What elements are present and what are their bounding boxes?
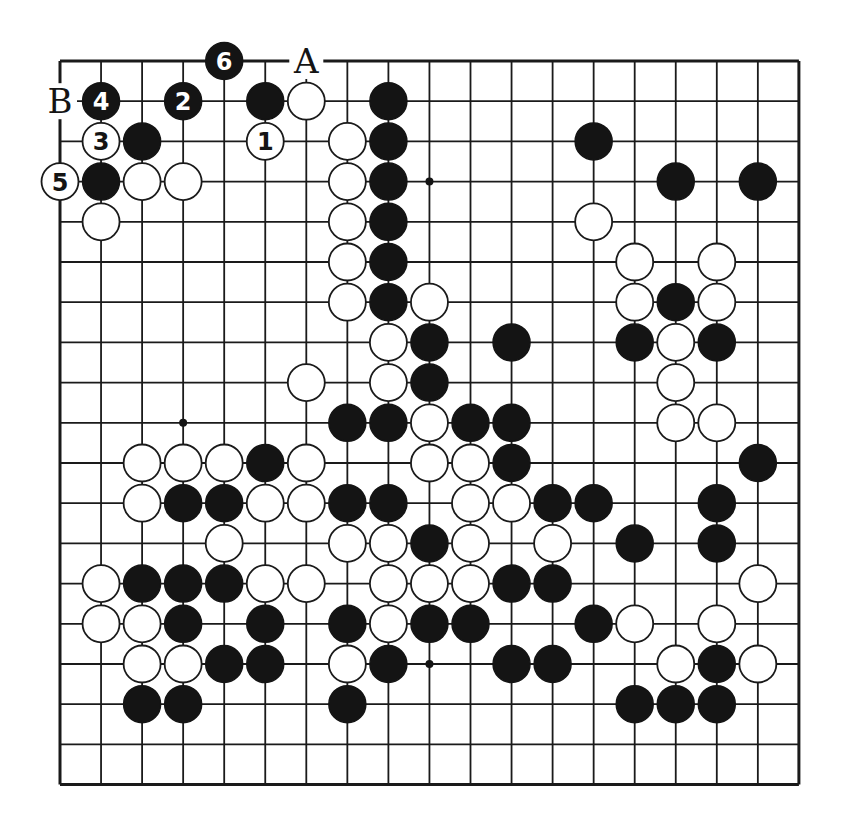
black-stone <box>329 686 366 723</box>
white-stone <box>411 565 448 602</box>
white-stone <box>288 364 325 401</box>
black-stone <box>657 284 694 321</box>
white-stone <box>657 646 694 683</box>
white-stone <box>206 445 243 482</box>
black-stone <box>329 605 366 642</box>
white-stone <box>411 404 448 441</box>
white-stone <box>657 404 694 441</box>
go-board: 123456 AB <box>0 0 846 827</box>
black-stone <box>657 686 694 723</box>
white-stone <box>411 445 448 482</box>
white-stone <box>657 364 694 401</box>
white-stone <box>165 445 202 482</box>
move-number: 5 <box>52 169 69 197</box>
black-stone <box>698 324 735 361</box>
white-stone <box>329 284 366 321</box>
white-stone <box>247 485 284 522</box>
label-text: B <box>48 81 73 121</box>
black-stone <box>534 485 571 522</box>
white-stone <box>165 646 202 683</box>
white-stone <box>329 244 366 281</box>
white-stone <box>370 605 407 642</box>
point-label-B: B <box>43 81 77 121</box>
black-stone <box>452 404 489 441</box>
white-stone <box>452 565 489 602</box>
white-stone <box>288 485 325 522</box>
black-stone <box>698 646 735 683</box>
numbered-move-5: 5 <box>42 163 79 200</box>
black-stone <box>165 485 202 522</box>
black-stone <box>165 605 202 642</box>
black-stone <box>370 244 407 281</box>
black-stone <box>370 123 407 160</box>
black-stone <box>575 605 612 642</box>
white-stone <box>124 605 161 642</box>
black-stone <box>493 324 530 361</box>
black-stone <box>411 605 448 642</box>
white-stone <box>739 565 776 602</box>
black-stone <box>206 646 243 683</box>
white-stone <box>452 485 489 522</box>
black-stone <box>329 485 366 522</box>
white-stone <box>288 83 325 120</box>
white-stone <box>124 646 161 683</box>
black-stone <box>411 364 448 401</box>
star-point-icon <box>179 419 187 427</box>
black-stone <box>370 163 407 200</box>
black-stone <box>616 324 653 361</box>
black-stone <box>739 445 776 482</box>
numbered-move-6: 6 <box>206 43 243 80</box>
black-stone <box>329 404 366 441</box>
move-number: 6 <box>216 48 233 76</box>
white-stone <box>370 565 407 602</box>
black-stone <box>452 605 489 642</box>
white-stone <box>83 203 120 240</box>
white-stone <box>452 525 489 562</box>
white-stone <box>165 163 202 200</box>
white-stone <box>247 565 284 602</box>
black-stone <box>493 646 530 683</box>
white-stone <box>739 646 776 683</box>
black-stone <box>247 83 284 120</box>
go-board-diagram: 123456 AB <box>0 0 846 827</box>
black-stone <box>206 485 243 522</box>
black-stone <box>83 163 120 200</box>
white-stone <box>493 485 530 522</box>
black-stone <box>124 123 161 160</box>
move-number: 4 <box>93 88 110 116</box>
numbered-move-1: 1 <box>247 123 284 160</box>
white-stone <box>616 244 653 281</box>
black-stone <box>370 646 407 683</box>
white-stone <box>329 646 366 683</box>
numbered-move-3: 3 <box>83 123 120 160</box>
black-stone <box>247 605 284 642</box>
white-stone <box>124 485 161 522</box>
white-stone <box>329 163 366 200</box>
black-stone <box>370 404 407 441</box>
white-stone <box>698 404 735 441</box>
white-stone <box>370 324 407 361</box>
black-stone <box>493 445 530 482</box>
black-stone <box>575 485 612 522</box>
move-number: 1 <box>257 128 274 156</box>
black-stone <box>616 686 653 723</box>
white-stone <box>288 445 325 482</box>
numbered-move-2: 2 <box>165 83 202 120</box>
black-stone <box>739 163 776 200</box>
black-stone <box>370 203 407 240</box>
black-stone <box>534 565 571 602</box>
label-text: A <box>293 41 319 81</box>
white-stone <box>616 605 653 642</box>
black-stone <box>247 445 284 482</box>
black-stone <box>370 284 407 321</box>
black-stone <box>206 565 243 602</box>
move-number: 2 <box>175 88 192 116</box>
white-stone <box>657 324 694 361</box>
black-stone <box>616 525 653 562</box>
white-stone <box>124 163 161 200</box>
black-stone <box>493 565 530 602</box>
black-stone <box>657 163 694 200</box>
black-stone <box>370 485 407 522</box>
point-label-A: A <box>289 41 323 81</box>
black-stone <box>411 525 448 562</box>
